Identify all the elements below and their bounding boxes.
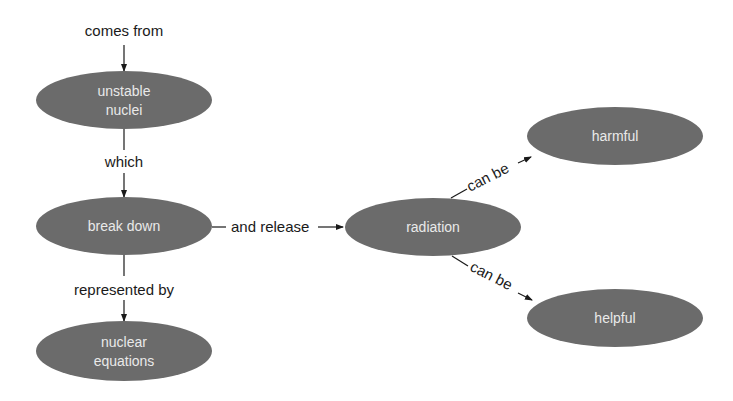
node-radiation-label: radiation [406, 219, 460, 235]
node-break-down: break down [36, 197, 212, 255]
node-helpful: helpful [527, 289, 703, 347]
node-harmful-label: harmful [592, 128, 639, 144]
node-unstable-nuclei-line1: unstable [98, 83, 151, 99]
arrow-can-be-helpful [518, 293, 532, 300]
arrow-can-be-harmful [518, 157, 531, 163]
node-harmful: harmful [527, 107, 703, 165]
edge-label-which: which [104, 153, 143, 170]
edge-label-can-be-helpful: can be [468, 258, 516, 294]
node-radiation: radiation [345, 198, 521, 256]
edge-label-represented-by: represented by [74, 281, 175, 298]
edge-label-can-be-harmful: can be [464, 159, 512, 195]
connector-can-be-harmful-left [451, 189, 467, 198]
node-unstable-nuclei-line2: nuclei [106, 102, 143, 118]
connector-can-be-helpful-left [452, 256, 468, 266]
node-nuclear-equations: nuclear equations [36, 321, 212, 381]
node-nuclear-equations-line1: nuclear [101, 334, 147, 350]
node-helpful-label: helpful [594, 310, 635, 326]
node-break-down-label: break down [88, 218, 160, 234]
node-unstable-nuclei: unstable nuclei [36, 71, 212, 129]
concept-map: comes from unstable nuclei which break d… [0, 0, 733, 401]
concept-map-canvas: comes from unstable nuclei which break d… [0, 0, 733, 401]
edge-label-and-release: and release [231, 218, 309, 235]
edge-label-comes-from: comes from [85, 22, 163, 39]
node-nuclear-equations-line2: equations [94, 353, 155, 369]
